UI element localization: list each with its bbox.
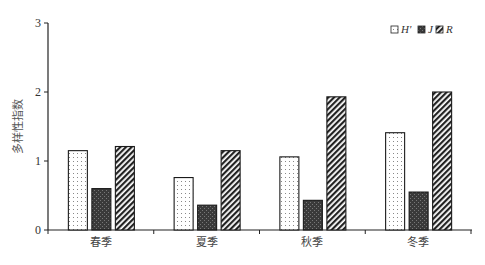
bar-j-3 bbox=[409, 192, 428, 230]
bar-r-0 bbox=[115, 147, 134, 230]
bar-j-2 bbox=[303, 200, 322, 230]
bar-j-0 bbox=[92, 189, 111, 230]
x-category-label: 冬季 bbox=[407, 235, 429, 249]
legend-swatch-dark bbox=[418, 26, 425, 33]
y-tick-label: 3 bbox=[35, 16, 41, 30]
bar-h-3 bbox=[386, 133, 405, 230]
y-tick-label: 0 bbox=[35, 223, 41, 237]
y-tick-label: 2 bbox=[35, 85, 41, 99]
x-category-label: 夏季 bbox=[196, 236, 218, 249]
x-category-label: 春季 bbox=[90, 236, 112, 249]
bar-h-1 bbox=[174, 178, 193, 230]
bar-r-1 bbox=[221, 151, 240, 230]
legend-label: J bbox=[428, 23, 434, 35]
category-labels: 春季夏季秋季冬季 bbox=[90, 235, 429, 249]
x-category-label: 秋季 bbox=[301, 235, 323, 249]
legend-label: H' bbox=[400, 23, 412, 35]
bar-chart: 0123 多样性指数 春季夏季秋季冬季 H' J R bbox=[0, 0, 485, 265]
y-tick-label: 1 bbox=[35, 154, 41, 168]
legend-item-j: J bbox=[418, 23, 434, 35]
bar-j-1 bbox=[198, 205, 217, 230]
bars bbox=[68, 92, 451, 230]
legend-item-h: H' bbox=[391, 23, 412, 35]
legend-item-r: R bbox=[436, 23, 453, 35]
bar-r-2 bbox=[327, 97, 346, 230]
legend: H' J R bbox=[391, 23, 453, 35]
x-ticks bbox=[48, 230, 471, 234]
y-ticks: 0123 bbox=[35, 16, 48, 237]
bar-h-0 bbox=[68, 151, 87, 230]
bar-r-3 bbox=[433, 92, 452, 230]
legend-swatch-hatch bbox=[436, 26, 443, 33]
y-axis-label: 多样性指数 bbox=[11, 99, 25, 154]
bar-h-2 bbox=[280, 157, 299, 230]
legend-label: R bbox=[445, 23, 453, 35]
legend-swatch-dots bbox=[391, 26, 398, 33]
